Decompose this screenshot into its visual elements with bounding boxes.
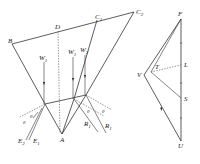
dashed-line-d-a: [58, 31, 60, 133]
label-c1: C1: [95, 13, 102, 22]
line-v-u: [144, 75, 181, 141]
label-f: F: [177, 10, 183, 18]
label-r1: R1: [83, 120, 91, 129]
line-c2-right-joint: [86, 12, 134, 95]
label-a: A: [59, 136, 65, 144]
left-figure: B D C1 C2 A W1 W1 W2 E2 E1 R1 R1 θ θ θ θ: [8, 8, 144, 146]
label-e2: E2: [17, 137, 25, 146]
force-diagram: B D C1 C2 A W1 W1 W2 E2 E1 R1 R1 θ θ θ θ…: [0, 0, 200, 164]
left-normal-dash: [20, 104, 45, 117]
line-c1-middle-joint: [74, 20, 97, 99]
right-figure: F L S U V T: [137, 10, 188, 150]
diagram-canvas: B D C1 C2 A W1 W1 W2 E2 E1 R1 R1 θ θ θ θ…: [0, 0, 200, 164]
label-s: S: [184, 95, 188, 103]
top-line-b-c2: [12, 12, 134, 44]
w1-arrow-icon: [43, 82, 45, 85]
line-right-joint-a: [62, 95, 86, 134]
label-b: B: [8, 37, 13, 45]
line-middle-joint-a: [62, 99, 74, 134]
label-v: V: [137, 71, 142, 79]
w2-arrow-icon: [72, 78, 74, 81]
label-w2: W1: [68, 48, 76, 57]
label-theta-right-1: θ: [87, 109, 90, 114]
label-theta-right-2: θ: [102, 109, 105, 114]
arrow-v-u-icon: [160, 107, 162, 111]
label-e1: E1: [32, 137, 40, 146]
label-l: L: [183, 61, 188, 69]
label-w3: W2: [80, 46, 89, 55]
line-left-joint-a: [45, 104, 62, 134]
label-theta-left-2: θ: [30, 114, 33, 119]
e2-line: [26, 108, 42, 140]
line-b-left-joint: [12, 44, 45, 104]
line-t-s: [151, 72, 181, 98]
label-u: U: [178, 142, 184, 150]
label-d: D: [54, 23, 60, 31]
label-c2: C2: [136, 8, 144, 17]
label-theta-left-1: θ: [23, 120, 26, 125]
label-r2: R1: [104, 122, 112, 131]
e1-line: [29, 104, 45, 140]
label-w1: W1: [39, 54, 47, 63]
w3-arrow-icon: [84, 75, 86, 78]
